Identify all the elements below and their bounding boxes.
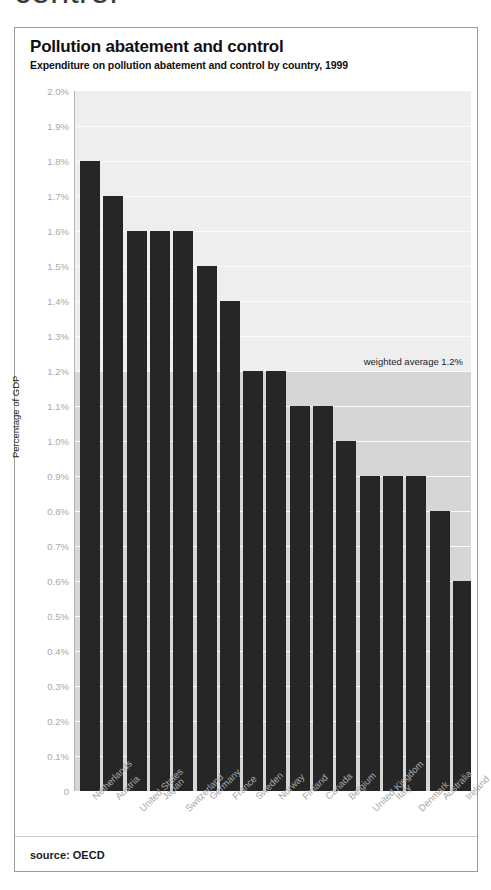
y-axis-tick-label: 0.4% (47, 646, 69, 657)
bar (80, 161, 100, 791)
y-axis-tick-label: 0.6% (47, 576, 69, 587)
y-axis-tick-label: 2.0% (47, 86, 69, 97)
plot-wrapper: weighted average 1.2% (74, 91, 471, 791)
y-axis-tick-label: 0.1% (47, 751, 69, 762)
bar (150, 231, 170, 791)
y-axis-tick-column: 2.0%1.9%1.8%1.7%1.6%1.5%1.4%1.3%1.2%1.1%… (15, 91, 69, 791)
bar (313, 406, 333, 791)
y-axis-tick-label: 1.9% (47, 121, 69, 132)
y-axis-tick-label: 0.2% (47, 716, 69, 727)
y-axis-tick-label: 1.8% (47, 156, 69, 167)
gridline (75, 126, 471, 127)
bar (290, 406, 310, 791)
y-axis-tick-label: 0.8% (47, 506, 69, 517)
y-axis-tick-label: 0.5% (47, 611, 69, 622)
divider (15, 836, 477, 837)
y-axis-tick-label: 1.6% (47, 226, 69, 237)
y-axis-tick-label: 1.4% (47, 296, 69, 307)
x-axis-labels: NetherlandsAustriaUnited StatesJapanSwit… (74, 792, 491, 862)
bar (127, 231, 147, 791)
bar (453, 581, 471, 791)
bar (243, 371, 263, 791)
plot-area: weighted average 1.2% (74, 91, 471, 791)
bar (220, 301, 240, 791)
y-axis-tick-label: 0.3% (47, 681, 69, 692)
chart-card: Pollution abatement and control Expendit… (14, 27, 478, 872)
bar (406, 476, 426, 791)
y-axis-tick-label: 1.2% (47, 366, 69, 377)
gridline (75, 196, 471, 197)
gridline (75, 161, 471, 162)
bar (173, 231, 193, 791)
y-axis-tick-label: 1.5% (47, 261, 69, 272)
chart-subtitle: Expenditure on pollution abatement and c… (30, 59, 348, 71)
chart-title: Pollution abatement and control (30, 37, 284, 57)
weighted-average-annotation: weighted average 1.2% (364, 356, 463, 367)
y-axis-tick-label: 0.7% (47, 541, 69, 552)
clipped-page-heading: control (14, 0, 117, 11)
bar (336, 441, 356, 791)
y-axis-tick-label: 0.9% (47, 471, 69, 482)
bar (360, 476, 380, 791)
y-axis-title: Percentage of GDP (10, 376, 21, 458)
bar (430, 511, 450, 791)
y-axis-tick-label: 1.0% (47, 436, 69, 447)
bar (103, 196, 123, 791)
y-axis-tick-label: 1.7% (47, 191, 69, 202)
y-axis-tick-label: 1.1% (47, 401, 69, 412)
y-axis-tick-label: 0 (64, 786, 69, 797)
bar (197, 266, 217, 791)
bar (383, 476, 403, 791)
source-note: source: OECD (30, 849, 105, 861)
y-axis-tick-label: 1.3% (47, 331, 69, 342)
bar (266, 371, 286, 791)
